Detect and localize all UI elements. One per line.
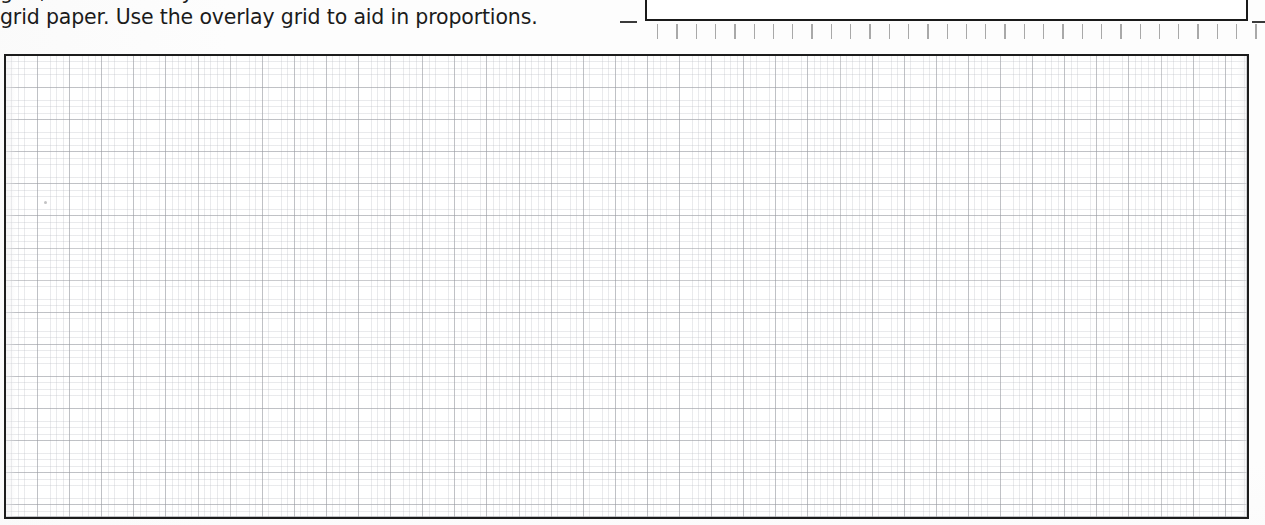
ruler-tick — [1024, 24, 1025, 39]
ruler-tick — [1217, 24, 1218, 39]
ruler-tick — [889, 24, 890, 39]
leader-dash-left — [620, 21, 637, 23]
worksheet-page: grid, but draw it by the same method as … — [0, 0, 1265, 525]
ruler-tick — [1082, 24, 1083, 39]
ruler-tick — [696, 24, 697, 39]
ruler-tick — [1197, 24, 1198, 39]
ruler-tick — [869, 24, 870, 39]
ruler-tick — [1062, 24, 1063, 39]
grid-paper-box — [4, 54, 1249, 519]
ruler-tick — [773, 24, 774, 39]
ruler-tick — [947, 24, 948, 39]
ruler-tick — [811, 24, 812, 39]
ruler-tick — [1043, 24, 1044, 39]
ruler-tick — [676, 24, 677, 39]
scan-speck — [44, 201, 47, 204]
ruler-tick — [927, 24, 928, 39]
ruler-tick — [1101, 24, 1102, 39]
tick-ruler — [645, 24, 1257, 40]
ruler-tick — [657, 24, 658, 39]
grid-lines — [6, 56, 1247, 517]
header-drawing-box — [645, 0, 1248, 21]
ruler-tick — [831, 24, 832, 39]
ruler-tick — [1159, 24, 1160, 39]
ruler-tick — [1236, 24, 1237, 39]
instruction-text-block: grid, but draw it by the same method as … — [0, 0, 640, 29]
ruler-tick — [966, 24, 967, 39]
ruler-tick — [734, 24, 735, 39]
ruler-tick — [850, 24, 851, 39]
ruler-tick — [1120, 24, 1121, 39]
ruler-tick — [1140, 24, 1141, 39]
ruler-tick — [754, 24, 755, 39]
ruler-tick — [715, 24, 716, 39]
ruler-tick — [908, 24, 909, 39]
instruction-line-visible: grid paper. Use the overlay grid to aid … — [0, 5, 640, 30]
ruler-tick — [1004, 24, 1005, 39]
ruler-tick — [1255, 24, 1256, 39]
leader-dash-right — [1252, 21, 1265, 23]
ruler-tick — [1178, 24, 1179, 39]
ruler-tick — [985, 24, 986, 39]
ruler-tick — [792, 24, 793, 39]
